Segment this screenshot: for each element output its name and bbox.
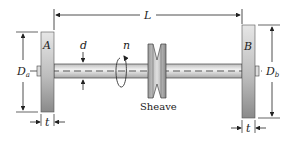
shaft bbox=[30, 64, 262, 78]
svg-text:Da: Da bbox=[16, 65, 30, 79]
thickness-a-label: t bbox=[45, 116, 50, 129]
length-label: L bbox=[143, 9, 151, 22]
disc-b: B bbox=[242, 25, 255, 118]
disc-a: A bbox=[41, 32, 54, 112]
shaft-diameter-label: d bbox=[80, 39, 87, 52]
hub-b bbox=[255, 66, 259, 76]
thickness-a-dimension: t bbox=[30, 114, 65, 129]
diameter-a-dimension: Da bbox=[16, 32, 38, 112]
diameter-b-label: D bbox=[265, 65, 275, 78]
diameter-b-dimension: Db bbox=[258, 25, 280, 118]
disc-b-label: B bbox=[243, 40, 252, 53]
length-dimension: L bbox=[54, 9, 242, 30]
disc-a-label: A bbox=[42, 39, 51, 52]
sheave-label: Sheave bbox=[140, 101, 177, 112]
thickness-b-dimension: t bbox=[231, 120, 266, 135]
hub-a bbox=[37, 66, 41, 76]
speed-label: n bbox=[123, 39, 130, 52]
rotation-arrow: n bbox=[116, 39, 130, 87]
svg-text:Db: Db bbox=[265, 65, 280, 79]
diameter-a-label: D bbox=[16, 65, 26, 78]
shaft-diagram: L A B Sheave n d Da bbox=[0, 0, 294, 142]
thickness-b-label: t bbox=[246, 122, 251, 135]
